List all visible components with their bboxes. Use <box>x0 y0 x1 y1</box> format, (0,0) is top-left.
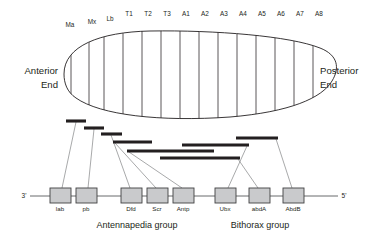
segment-label-lb: Lb <box>106 15 114 22</box>
segment-label-a7: A7 <box>296 10 304 17</box>
gene-label-pb: pb <box>83 205 90 212</box>
anterior-end-label-line2: End <box>41 79 58 90</box>
gene-box-ubx[interactable] <box>215 188 236 203</box>
embryo-group <box>64 28 336 122</box>
anterior-end-label-line1: Anterior <box>24 65 58 76</box>
gene-label-dfd: Dfd <box>126 205 136 212</box>
connector-pb <box>88 129 94 188</box>
embryo-outline <box>64 31 336 119</box>
connector-ubx <box>228 146 247 188</box>
cluster-group-labels: Antennapedia group Bithorax group <box>96 220 289 230</box>
five-prime-label: 5' <box>342 192 347 199</box>
gene-label-abdb: AbdB <box>285 205 300 212</box>
segment-label-a2: A2 <box>201 10 209 17</box>
gene-box-abda[interactable] <box>249 188 270 203</box>
gene-labels: lab pb Dfd Scr Antp Ubx abdA AbdB <box>56 205 301 212</box>
gene-label-abda: abdA <box>252 205 267 212</box>
posterior-end-label-line1: Posterior <box>320 65 359 76</box>
segment-label-a6: A6 <box>277 10 285 17</box>
segment-label-t1: T1 <box>125 10 133 17</box>
segment-label-a8: A8 <box>315 10 323 17</box>
gene-box-lab[interactable] <box>50 188 71 203</box>
segment-label-t2: T2 <box>144 10 152 17</box>
segment-label-ma: Ma <box>66 21 75 28</box>
segment-label-mx: Mx <box>88 18 97 25</box>
segment-label-t3: T3 <box>163 10 171 17</box>
segment-label-a3: A3 <box>220 10 228 17</box>
gene-box-antp[interactable] <box>173 188 194 203</box>
group-label-bithorax: Bithorax group <box>231 220 290 230</box>
connector-lab <box>62 122 76 188</box>
gene-box-pb[interactable] <box>76 188 97 203</box>
connector-abda <box>238 159 258 188</box>
connector-abdb <box>276 139 292 188</box>
posterior-end-label-line2: End <box>320 79 337 90</box>
three-prime-label: 3' <box>22 192 27 199</box>
gene-label-antp: Antp <box>177 205 190 212</box>
gene-label-lab: lab <box>56 205 65 212</box>
gene-box-dfd[interactable] <box>121 188 142 203</box>
figure-canvas: Ma Mx Lb T1 T2 T3 A1 A2 A3 A4 A5 A6 A7 A… <box>0 0 368 238</box>
connector-lines <box>62 122 292 188</box>
group-label-antennapedia: Antennapedia group <box>96 220 177 230</box>
gene-label-ubx: Ubx <box>219 205 231 212</box>
gene-boxes <box>50 188 304 203</box>
gene-label-scr: Scr <box>152 205 161 212</box>
segment-label-a4: A4 <box>239 10 247 17</box>
expression-bars <box>66 121 278 158</box>
gene-box-abdb[interactable] <box>283 188 304 203</box>
segment-label-a1: A1 <box>182 10 190 17</box>
gene-box-scr[interactable] <box>147 188 168 203</box>
hox-expression-diagram: Ma Mx Lb T1 T2 T3 A1 A2 A3 A4 A5 A6 A7 A… <box>0 0 368 238</box>
segment-label-a5: A5 <box>258 10 266 17</box>
segment-labels: Ma Mx Lb T1 T2 T3 A1 A2 A3 A4 A5 A6 A7 A… <box>66 10 324 28</box>
